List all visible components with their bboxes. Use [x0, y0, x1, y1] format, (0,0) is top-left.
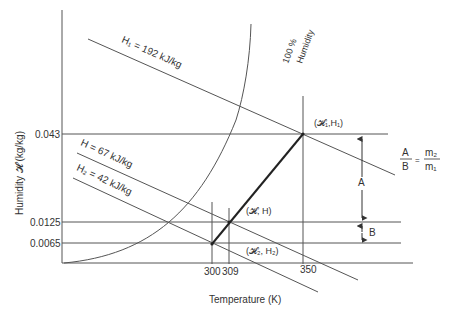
y-tick-00065: 0.0065 [30, 238, 61, 249]
segment-a-label: A [358, 177, 365, 188]
point-label-mix: (𝓗, H) [246, 206, 272, 216]
ratio-formula: A B = m₂ m₁ [400, 147, 440, 172]
x-axis-label: Temperature (K) [209, 294, 281, 305]
x-tick-300: 300 [204, 266, 221, 277]
enthalpy-line-h2 [73, 178, 318, 292]
x-tick-350: 350 [300, 264, 317, 275]
mixing-line [212, 134, 303, 244]
ratio-num-right: m₂ [425, 147, 437, 158]
enthalpy-line-h1 [88, 39, 395, 175]
point-label-2: (𝓗₂, H₂) [246, 246, 278, 256]
humidity-chart: 0.043 0.0125 0.0065 300 309 350 Temperat… [0, 0, 452, 320]
ratio-equals: = [415, 156, 420, 165]
ratio-num-left: A [402, 147, 409, 158]
y-tick-00125: 0.0125 [30, 217, 61, 228]
ratio-den-left: B [402, 161, 409, 172]
y-axis-label: Humidity 𝓗 (kg/kg) [14, 131, 25, 215]
saturation-label-2: Humidity [294, 28, 316, 65]
x-tick-309: 309 [222, 266, 239, 277]
ratio-den-right: m₁ [425, 161, 437, 172]
enthalpy-line-h [77, 153, 358, 280]
point-label-1: (𝓗₁,H₁) [314, 118, 343, 128]
segment-b-label: B [369, 227, 376, 238]
enthalpy-label-h1: H₁ = 192 kJ/kg [120, 34, 184, 70]
y-tick-0043: 0.043 [35, 129, 60, 140]
